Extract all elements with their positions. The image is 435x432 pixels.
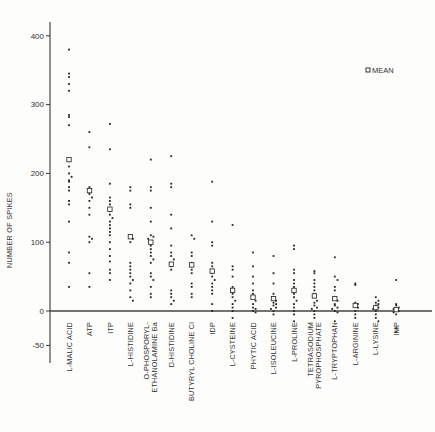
data-point [68, 114, 70, 116]
data-point [252, 283, 254, 285]
data-point [378, 300, 380, 302]
data-point [314, 302, 316, 304]
category-label: L-CYSTEINE [228, 322, 237, 366]
data-point [232, 265, 234, 267]
data-point [89, 207, 91, 209]
data-point [153, 279, 155, 281]
data-point [170, 214, 172, 216]
data-point [68, 116, 70, 118]
data-point [293, 248, 295, 250]
data-point [293, 283, 295, 285]
data-point [211, 245, 213, 247]
data-point [132, 279, 134, 281]
data-point [232, 286, 234, 288]
data-point [337, 279, 339, 281]
data-point [314, 310, 316, 312]
data-point [193, 238, 195, 240]
data-point [150, 293, 152, 295]
data-point [68, 73, 70, 75]
data-point [191, 272, 193, 274]
data-point [153, 259, 155, 261]
data-point [375, 296, 377, 298]
data-point [129, 272, 131, 274]
data-point [314, 270, 316, 272]
data-point [232, 296, 234, 298]
data-point [191, 269, 193, 271]
mean-marker [312, 294, 316, 298]
data-point [150, 221, 152, 223]
mean-marker [333, 296, 337, 300]
mean-marker [149, 240, 153, 244]
data-point [191, 286, 193, 288]
data-point [68, 76, 70, 78]
data-point [334, 276, 336, 278]
data-point [232, 269, 234, 271]
data-point [211, 276, 213, 278]
data-point [109, 269, 111, 271]
data-point [311, 308, 313, 310]
data-point [378, 320, 380, 322]
svg-text:D-HISTIDINE: D-HISTIDINE [167, 322, 176, 367]
category-label: O-PHOSPORYL-ETHANOLAMINE Ba [142, 322, 159, 393]
data-point [68, 252, 70, 254]
data-point [170, 269, 172, 271]
data-point [252, 303, 254, 305]
data-point [68, 124, 70, 126]
mean-marker [108, 207, 112, 211]
data-point [91, 197, 93, 199]
data-point [109, 214, 111, 216]
category-label: BUTYRYL CHOLINE Cl [187, 322, 196, 401]
data-point [337, 307, 339, 309]
data-point [109, 221, 111, 223]
data-point [150, 234, 152, 236]
data-point [150, 255, 152, 257]
data-point [68, 90, 70, 92]
data-point [395, 305, 397, 307]
data-point [293, 286, 295, 288]
data-point [129, 283, 131, 285]
data-point [234, 300, 236, 302]
mean-marker [394, 307, 398, 311]
data-point [211, 262, 213, 264]
mean-marker [190, 263, 194, 267]
data-point [354, 284, 356, 286]
data-point [109, 234, 111, 236]
category-label: L-HISTIDINE [126, 322, 135, 366]
data-point [68, 166, 70, 168]
data-point [232, 293, 234, 295]
data-point [109, 272, 111, 274]
data-point [112, 217, 114, 219]
data-point [68, 83, 70, 85]
data-point [211, 293, 213, 295]
data-point [316, 300, 318, 302]
category-label: ITP [106, 322, 115, 334]
data-point [89, 146, 91, 148]
data-point [314, 290, 316, 292]
y-tick-label: 200 [31, 169, 45, 178]
data-point [211, 310, 213, 312]
mean-marker [230, 288, 234, 292]
svg-text:L-CYSTEINE: L-CYSTEINE [228, 322, 237, 366]
data-point [109, 224, 111, 226]
mean-marker [128, 235, 132, 239]
data-point [273, 283, 275, 285]
data-point [71, 176, 73, 178]
data-point [191, 283, 193, 285]
data-point [354, 310, 356, 312]
data-point [147, 238, 149, 240]
data-point [170, 293, 172, 295]
data-point [314, 317, 316, 319]
data-point [293, 272, 295, 274]
data-point [89, 131, 91, 133]
mean-marker [169, 262, 173, 266]
data-point [129, 265, 131, 267]
category-label: IMP [392, 322, 401, 335]
data-point [170, 296, 172, 298]
data-point [314, 305, 316, 307]
data-point [270, 308, 272, 310]
data-point [273, 272, 275, 274]
chart: 4003002001000-50 L-MALIC ACIDATPITPL-HIS… [0, 0, 435, 432]
data-point [314, 272, 316, 274]
category-label: L-TRYPTOPHAN [330, 322, 339, 380]
category-label: L-LYSINE [371, 322, 380, 355]
